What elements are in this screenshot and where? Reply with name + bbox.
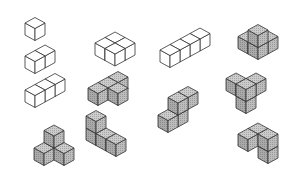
shape-monocube bbox=[25, 18, 45, 41]
cube bbox=[25, 18, 45, 41]
shape-tetracube-square bbox=[95, 32, 135, 66]
shape-tetracube-screw-left bbox=[226, 73, 266, 114]
cube bbox=[248, 25, 268, 48]
cube bbox=[25, 51, 45, 74]
cube bbox=[86, 111, 106, 134]
cube bbox=[25, 85, 45, 108]
shape-tetracube-screw-right bbox=[238, 123, 278, 164]
shape-tetracube-stair bbox=[34, 125, 74, 166]
cube bbox=[106, 134, 126, 157]
shape-tetracube-line bbox=[160, 28, 210, 68]
polycube-diagram bbox=[0, 0, 294, 169]
cube bbox=[258, 129, 278, 152]
shape-tetracube-tripod bbox=[238, 25, 278, 60]
cube bbox=[105, 43, 125, 66]
polycube-canvas bbox=[0, 0, 294, 169]
cube bbox=[168, 92, 188, 115]
cube bbox=[238, 129, 258, 152]
cube bbox=[160, 45, 180, 68]
cube bbox=[108, 83, 128, 106]
cube bbox=[236, 79, 256, 102]
cube bbox=[88, 83, 108, 106]
cube bbox=[44, 125, 64, 148]
shape-tetracube-S bbox=[158, 87, 198, 133]
shape-dicube bbox=[25, 45, 55, 74]
shape-tetracube-L-flat bbox=[88, 72, 128, 106]
shape-tricube-line bbox=[25, 74, 65, 108]
shape-tetracube-L-standing bbox=[86, 111, 126, 157]
